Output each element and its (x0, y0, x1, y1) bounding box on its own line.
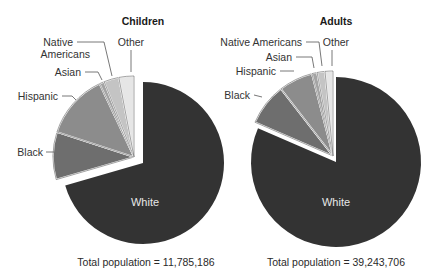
children-pie (53, 76, 224, 244)
adults-black-leader-line (254, 95, 262, 97)
children-label-hispanic: Hispanic (18, 90, 58, 102)
adults-asian-leader-line (296, 57, 314, 68)
children-label-white: White (131, 196, 159, 208)
adults-label-hispanic: Hispanic (236, 65, 276, 77)
children-label-native-2: Americans (40, 48, 90, 60)
adults-pie (251, 71, 421, 247)
pie-chart-figure: Children Native Americans Other Asian Hi… (0, 0, 437, 280)
children-label-asian: Asian (55, 66, 81, 78)
children-asian-leader-line (85, 72, 102, 80)
children-label-black: Black (17, 146, 43, 158)
adults-label-asian: Asian (266, 51, 292, 63)
children-title: Children (122, 15, 165, 27)
children-total-population: Total population = 11,785,186 (77, 256, 214, 268)
children-label-other: Other (118, 36, 145, 48)
adults-total-population: Total population = 39,243,706 (267, 256, 405, 268)
adults-label-other: Other (323, 36, 350, 48)
adults-title: Adults (320, 15, 353, 27)
children-hispanic-leader-line (62, 96, 76, 100)
adults-label-white: White (322, 196, 350, 208)
adults-native-leader-line (306, 42, 322, 66)
children-label-native-1: Native (43, 36, 73, 48)
adults-label-black: Black (224, 89, 250, 101)
adults-label-native: Native Americans (220, 36, 302, 48)
